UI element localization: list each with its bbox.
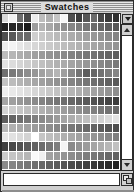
swatch-cell[interactable]: [68, 32, 75, 41]
swatch-cell[interactable]: [32, 124, 39, 133]
swatch-cell[interactable]: [24, 14, 31, 23]
swatch-cell[interactable]: [24, 133, 31, 142]
swatch-cell[interactable]: [76, 142, 83, 151]
swatch-grid[interactable]: [2, 14, 120, 170]
resize-grip-icon[interactable]: [121, 173, 133, 186]
swatch-cell[interactable]: [9, 142, 16, 151]
swatch-cell[interactable]: [9, 152, 16, 161]
swatch-cell[interactable]: [24, 124, 31, 133]
swatch-cell[interactable]: [113, 115, 120, 124]
swatch-cell[interactable]: [2, 23, 9, 32]
swatch-cell[interactable]: [61, 142, 68, 151]
swatch-cell[interactable]: [24, 106, 31, 115]
swatch-cell[interactable]: [17, 161, 24, 170]
swatch-cell[interactable]: [39, 32, 46, 41]
swatch-cell[interactable]: [46, 115, 53, 124]
swatch-cell[interactable]: [46, 23, 53, 32]
swatch-cell[interactable]: [76, 51, 83, 60]
swatch-cell[interactable]: [39, 97, 46, 106]
swatch-cell[interactable]: [113, 87, 120, 96]
swatch-cell[interactable]: [32, 60, 39, 69]
swatch-cell[interactable]: [76, 161, 83, 170]
vertical-scrollbar[interactable]: [121, 24, 133, 171]
swatch-cell[interactable]: [61, 51, 68, 60]
swatch-cell[interactable]: [113, 23, 120, 32]
swatch-cell[interactable]: [2, 152, 9, 161]
swatch-cell[interactable]: [54, 23, 61, 32]
swatch-cell[interactable]: [46, 87, 53, 96]
swatch-cell[interactable]: [2, 42, 9, 51]
swatch-cell[interactable]: [105, 69, 112, 78]
scroll-down-arrow-icon[interactable]: [122, 159, 132, 170]
swatch-cell[interactable]: [46, 142, 53, 151]
swatch-cell[interactable]: [113, 32, 120, 41]
swatch-cell[interactable]: [2, 161, 9, 170]
swatch-cell[interactable]: [113, 133, 120, 142]
swatch-cell[interactable]: [2, 60, 9, 69]
swatch-cell[interactable]: [17, 60, 24, 69]
swatch-cell[interactable]: [98, 23, 105, 32]
swatch-cell[interactable]: [17, 78, 24, 87]
swatch-cell[interactable]: [91, 106, 98, 115]
swatch-cell[interactable]: [24, 51, 31, 60]
swatch-cell[interactable]: [39, 142, 46, 151]
swatch-cell[interactable]: [54, 133, 61, 142]
swatch-cell[interactable]: [91, 142, 98, 151]
swatch-cell[interactable]: [32, 78, 39, 87]
swatch-cell[interactable]: [105, 161, 112, 170]
swatch-cell[interactable]: [9, 161, 16, 170]
swatch-cell[interactable]: [61, 14, 68, 23]
swatch-cell[interactable]: [39, 78, 46, 87]
swatch-cell[interactable]: [91, 97, 98, 106]
swatch-cell[interactable]: [68, 78, 75, 87]
swatch-cell[interactable]: [83, 23, 90, 32]
swatch-cell[interactable]: [24, 142, 31, 151]
swatch-cell[interactable]: [9, 60, 16, 69]
swatch-cell[interactable]: [54, 115, 61, 124]
swatch-cell[interactable]: [2, 142, 9, 151]
swatch-cell[interactable]: [2, 87, 9, 96]
swatch-cell[interactable]: [61, 97, 68, 106]
swatch-cell[interactable]: [32, 23, 39, 32]
swatch-cell[interactable]: [9, 124, 16, 133]
swatch-cell[interactable]: [24, 97, 31, 106]
swatch-cell[interactable]: [61, 32, 68, 41]
swatch-cell[interactable]: [2, 115, 9, 124]
swatch-cell[interactable]: [105, 14, 112, 23]
swatch-cell[interactable]: [76, 60, 83, 69]
swatch-cell[interactable]: [17, 32, 24, 41]
swatch-cell[interactable]: [46, 133, 53, 142]
swatch-cell[interactable]: [76, 23, 83, 32]
swatch-cell[interactable]: [61, 115, 68, 124]
swatch-cell[interactable]: [9, 32, 16, 41]
swatch-cell[interactable]: [39, 69, 46, 78]
swatch-cell[interactable]: [68, 60, 75, 69]
swatch-cell[interactable]: [39, 161, 46, 170]
swatch-cell[interactable]: [98, 78, 105, 87]
swatch-cell[interactable]: [76, 32, 83, 41]
swatch-cell[interactable]: [83, 124, 90, 133]
swatch-cell[interactable]: [61, 23, 68, 32]
swatch-cell[interactable]: [39, 106, 46, 115]
swatch-cell[interactable]: [39, 51, 46, 60]
swatch-cell[interactable]: [2, 78, 9, 87]
swatch-cell[interactable]: [91, 23, 98, 32]
swatch-cell[interactable]: [83, 133, 90, 142]
swatch-cell[interactable]: [54, 106, 61, 115]
swatch-cell[interactable]: [68, 51, 75, 60]
swatch-cell[interactable]: [113, 60, 120, 69]
swatch-cell[interactable]: [54, 152, 61, 161]
swatch-cell[interactable]: [68, 14, 75, 23]
swatch-cell[interactable]: [91, 78, 98, 87]
swatch-cell[interactable]: [68, 42, 75, 51]
swatch-cell[interactable]: [113, 51, 120, 60]
swatch-cell[interactable]: [76, 133, 83, 142]
swatch-cell[interactable]: [91, 161, 98, 170]
swatch-cell[interactable]: [76, 152, 83, 161]
swatch-cell[interactable]: [54, 51, 61, 60]
swatch-cell[interactable]: [98, 97, 105, 106]
swatch-cell[interactable]: [54, 87, 61, 96]
swatch-cell[interactable]: [54, 14, 61, 23]
swatch-cell[interactable]: [32, 152, 39, 161]
swatch-cell[interactable]: [9, 106, 16, 115]
